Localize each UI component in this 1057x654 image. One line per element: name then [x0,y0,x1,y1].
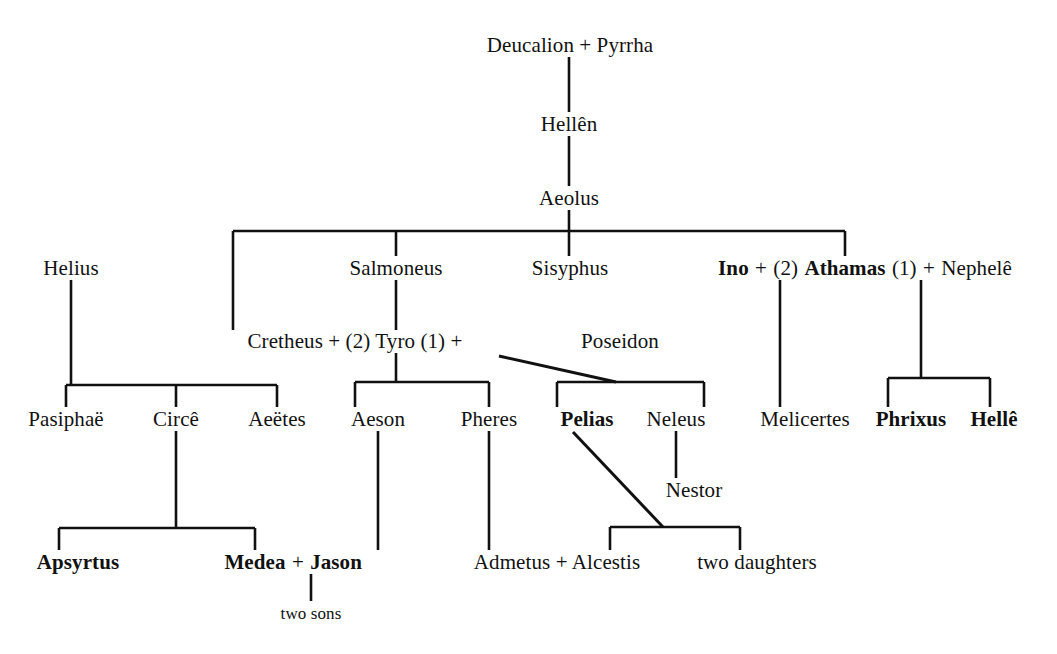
node-aeolus: Aeolus [539,188,599,209]
node-phrixus: Phrixus [876,409,947,430]
node-sisyphus: Sisyphus [532,258,609,279]
node-helle: Hellê [970,409,1017,430]
node-aeson: Aeson [351,409,405,430]
node-part: + [292,550,304,574]
node-part: Ino [718,256,749,280]
node-hellen: Hellên [541,114,598,135]
node-ino_athamas_nephele: Ino + (2) Athamas (1) + Nephelê [718,258,1012,279]
node-part: Nephelê [941,256,1012,280]
node-part: (1) [892,256,917,280]
node-two_sons: two sons [281,605,342,622]
node-salmoneus: Salmoneus [349,258,442,279]
node-part: + [755,256,767,280]
node-part: Jason [310,550,362,574]
node-circe: Circê [153,409,199,430]
node-admetus_alcestis: Admetus + Alcestis [474,552,640,573]
node-neleus: Neleus [647,409,706,430]
connector-tyro-poseidon-diagonal [499,356,616,382]
node-deucalion_pyrrha: Deucalion + Pyrrha [487,35,653,56]
node-poseidon: Poseidon [581,331,659,352]
node-part: Athamas [804,256,885,280]
node-pasiphae: Pasiphaë [28,409,103,430]
node-part: Medea [224,550,285,574]
node-medea_jason: Medea + Jason [224,552,362,573]
connector-pelias-to-daughters-diagonal [573,432,663,527]
genealogy-diagram: Deucalion + PyrrhaHellênAeolusHeliusSalm… [0,0,1057,654]
node-part: + [923,256,935,280]
node-helius: Helius [43,258,98,279]
node-melicertes: Melicertes [760,409,850,430]
node-pheres: Pheres [461,409,518,430]
node-part: (2) [773,256,798,280]
node-nestor: Nestor [666,480,723,501]
node-two_daughters: two daughters [697,552,817,573]
node-aeetes: Aeëtes [248,409,306,430]
node-cretheus_tyro: Cretheus + (2) Tyro (1) + [247,331,462,352]
node-pelias: Pelias [560,409,613,430]
node-apsyrtus: Apsyrtus [37,552,119,573]
